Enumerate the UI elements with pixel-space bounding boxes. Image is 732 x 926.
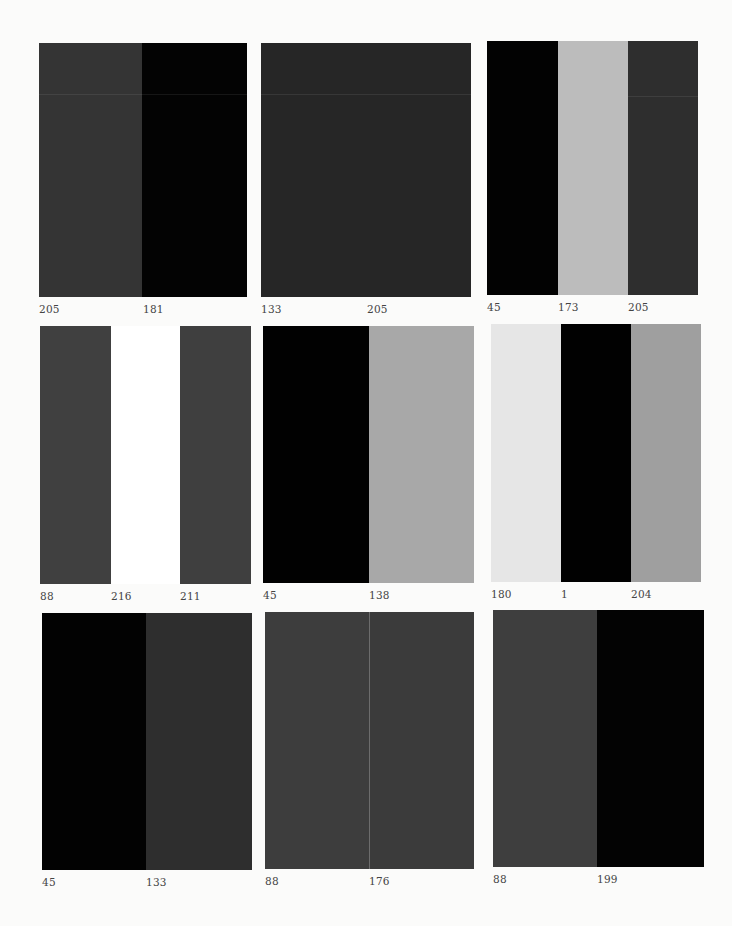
color-swatch — [487, 41, 698, 295]
color-strip — [366, 43, 471, 297]
strip-value-label: 216 — [111, 590, 132, 602]
swatch-panel-r1c1: 205181 — [39, 43, 247, 319]
strip-value-label: 45 — [42, 876, 56, 888]
strip-divider — [369, 612, 370, 869]
color-strip — [561, 324, 631, 582]
color-swatch — [42, 613, 252, 870]
color-strip — [263, 326, 369, 583]
strip-value-label: 133 — [261, 303, 282, 315]
color-strip — [40, 326, 111, 584]
swatch-panel-r1c2: 133205 — [261, 43, 471, 319]
strip-value-label: 173 — [558, 301, 579, 313]
scan-artifact-line — [261, 94, 471, 95]
color-swatch — [40, 326, 251, 584]
color-swatch — [39, 43, 247, 297]
strip-value-label: 211 — [180, 590, 201, 602]
strip-value-label: 88 — [40, 590, 54, 602]
color-strip — [261, 43, 366, 297]
color-strip — [631, 324, 701, 582]
strip-value-label: 205 — [39, 303, 60, 315]
color-strip — [628, 41, 698, 295]
color-strip — [265, 612, 369, 869]
color-strip — [180, 326, 251, 584]
strip-value-label: 205 — [367, 303, 388, 315]
color-strip — [42, 613, 146, 870]
strip-value-label: 180 — [491, 588, 512, 600]
color-strip — [369, 612, 474, 869]
strip-value-label: 45 — [487, 301, 501, 313]
color-strip — [487, 41, 558, 295]
color-swatch — [493, 610, 704, 867]
color-strip — [493, 610, 597, 867]
color-strip — [142, 43, 247, 297]
strip-value-label: 204 — [631, 588, 652, 600]
strip-value-label: 138 — [369, 589, 390, 601]
color-strip — [111, 326, 180, 584]
swatch-panel-r1c3: 45173205 — [487, 41, 698, 317]
strip-value-label: 176 — [369, 875, 390, 887]
color-swatch — [491, 324, 701, 582]
strip-value-label: 199 — [597, 873, 618, 885]
strip-value-label: 88 — [265, 875, 279, 887]
swatch-panel-r3c3: 88199 — [493, 610, 704, 889]
swatch-panel-r2c1: 88216211 — [40, 326, 251, 606]
color-strip — [558, 41, 628, 295]
scan-artifact-line — [39, 94, 247, 95]
strip-value-label: 45 — [263, 589, 277, 601]
swatch-panel-r3c1: 45133 — [42, 613, 252, 892]
color-strip — [39, 43, 142, 297]
color-strip — [491, 324, 561, 582]
strip-value-label: 133 — [146, 876, 167, 888]
strip-value-label: 205 — [628, 301, 649, 313]
strip-value-label: 181 — [143, 303, 164, 315]
color-strip — [146, 613, 252, 870]
color-swatch — [261, 43, 471, 297]
strip-value-label: 88 — [493, 873, 507, 885]
color-swatch — [263, 326, 474, 583]
swatch-panel-r2c3: 1801204 — [491, 324, 701, 604]
color-strip — [597, 610, 704, 867]
scan-artifact-line — [628, 96, 698, 97]
swatch-panel-r2c2: 45138 — [263, 326, 474, 605]
color-strip — [369, 326, 474, 583]
strip-value-label: 1 — [561, 588, 568, 600]
